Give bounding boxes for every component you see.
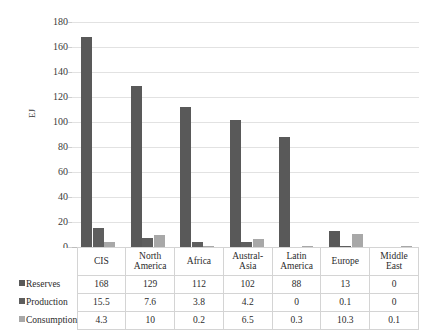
- y-axis-tick-label: 100: [28, 117, 68, 127]
- table-column-header: NorthAmerica: [126, 248, 175, 276]
- table-row: Consumption4.3100.26.50.310.30.1: [18, 312, 419, 330]
- y-axis-tick-label: 20: [28, 217, 68, 227]
- bar-reserves: [131, 86, 142, 247]
- table-cell: 168: [77, 276, 126, 294]
- y-axis-tick-label: 60: [28, 167, 68, 177]
- legend-item-consumption: Consumption: [18, 312, 77, 330]
- y-axis-tick-label: 140: [28, 67, 68, 77]
- table-cell: 0.1: [370, 312, 419, 330]
- y-axis-tick-label: 160: [28, 42, 68, 52]
- table-cell: 4.3: [77, 312, 126, 330]
- bar-group: [270, 22, 320, 247]
- table-cell: 0: [370, 294, 419, 312]
- bar-reserves: [279, 137, 290, 247]
- legend-item-reserves: Reserves: [18, 276, 77, 294]
- table-cell: 0.1: [321, 294, 370, 312]
- bar-group: [171, 22, 221, 247]
- table-column-header: MiddleEast: [370, 248, 419, 276]
- table-cell: 6.5: [223, 312, 272, 330]
- plot-area: EJ 180160140120100806040200: [0, 0, 432, 250]
- bar-reserves: [180, 107, 191, 247]
- legend-swatch-icon: [19, 280, 25, 286]
- bar-reserves: [329, 231, 340, 247]
- table-cell: 0: [272, 294, 321, 312]
- y-axis-ticks: 180160140120100806040200: [24, 0, 68, 250]
- legend-swatch-icon: [19, 316, 25, 322]
- table-cell: 10: [126, 312, 175, 330]
- table-cell: 3.8: [175, 294, 224, 312]
- data-table: CISNorthAmericaAfricaAustral-AsiaLatinAm…: [18, 247, 419, 330]
- table-cell: 112: [175, 276, 224, 294]
- bar-group: [369, 22, 419, 247]
- legend-label: Consumption: [26, 316, 77, 326]
- bar-reserves: [81, 37, 92, 247]
- table-cell: 0.3: [272, 312, 321, 330]
- y-axis-tick-label: 80: [28, 142, 68, 152]
- bar-consumption: [253, 239, 264, 247]
- table-column-header: Africa: [175, 248, 224, 276]
- y-axis-tick-label: 120: [28, 92, 68, 102]
- table-cell: 129: [126, 276, 175, 294]
- bar-group: [72, 22, 122, 247]
- table-cell: 15.5: [77, 294, 126, 312]
- bar-series-container: [72, 0, 419, 250]
- bar-production: [93, 228, 104, 247]
- legend-label: Production: [26, 298, 68, 308]
- bar-production: [142, 238, 153, 248]
- table-column-header: Austral-Asia: [223, 248, 272, 276]
- table-cell: 13: [321, 276, 370, 294]
- table-header-row: CISNorthAmericaAfricaAustral-AsiaLatinAm…: [18, 248, 419, 276]
- table-row: Reserves16812911210288130: [18, 276, 419, 294]
- table-cell: 4.2: [223, 294, 272, 312]
- table-cell: 10.3: [321, 312, 370, 330]
- table-cell: 88: [272, 276, 321, 294]
- bar-group: [122, 22, 172, 247]
- table-column-header: LatinAmerica: [272, 248, 321, 276]
- legend-item-production: Production: [18, 294, 77, 312]
- table-cell: 0: [370, 276, 419, 294]
- bar-group: [320, 22, 370, 247]
- chart-figure: EJ 180160140120100806040200 CISNorthAmer…: [0, 0, 432, 335]
- bar-consumption: [154, 235, 165, 248]
- legend-label: Reserves: [26, 280, 60, 290]
- table-cell: 7.6: [126, 294, 175, 312]
- table-corner-cell: [18, 248, 77, 276]
- bar-consumption: [352, 234, 363, 247]
- bar-group: [221, 22, 271, 247]
- table-column-header: CIS: [77, 248, 126, 276]
- bar-reserves: [230, 120, 241, 248]
- y-axis-tick-label: 40: [28, 192, 68, 202]
- y-axis-tick-label: 180: [28, 17, 68, 27]
- table-row: Production15.57.63.84.200.10: [18, 294, 419, 312]
- table-cell: 102: [223, 276, 272, 294]
- legend-swatch-icon: [19, 298, 25, 304]
- table-cell: 0.2: [175, 312, 224, 330]
- table-column-header: Europe: [321, 248, 370, 276]
